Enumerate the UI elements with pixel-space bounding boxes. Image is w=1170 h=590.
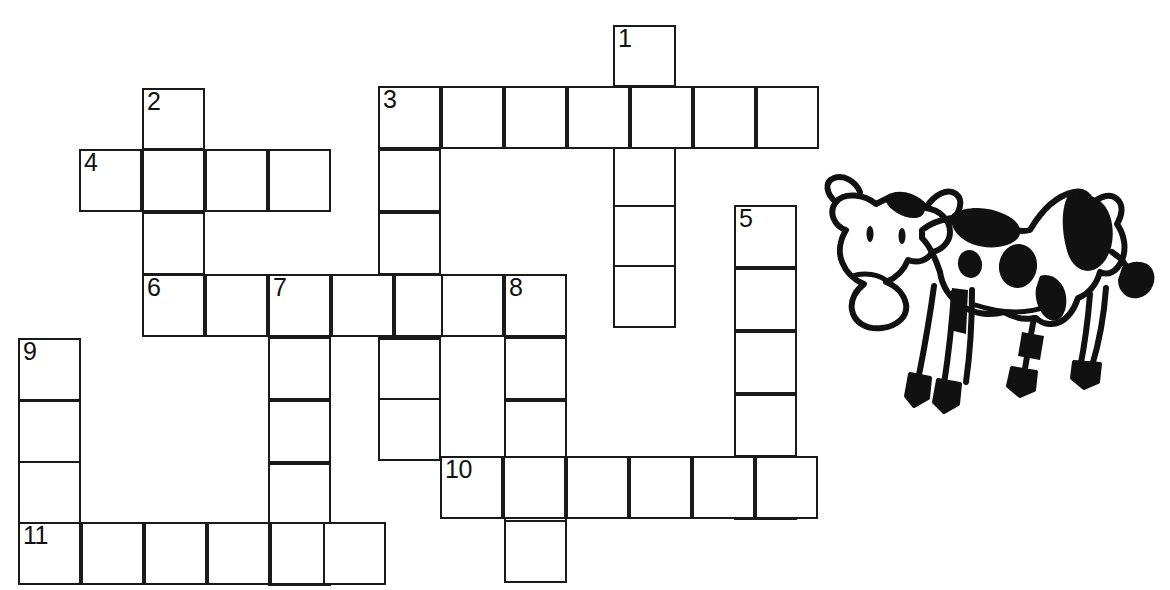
crossword-cell[interactable]	[205, 274, 268, 337]
crossword-cell[interactable]	[323, 522, 386, 585]
crossword-cell[interactable]	[378, 338, 441, 401]
cow-body-spot-round	[996, 242, 1040, 291]
crossword-cell[interactable]	[503, 456, 566, 519]
crossword-cell[interactable]	[734, 394, 797, 457]
cow-tail-tuft	[1120, 264, 1152, 297]
cow-drawing	[812, 168, 1164, 426]
crossword-cell[interactable]: 11	[18, 522, 81, 585]
cell-number: 9	[23, 338, 36, 364]
cow-hoof-front-left	[906, 374, 930, 406]
crossword-cell[interactable]	[613, 205, 676, 268]
cow-rump-spot	[1063, 194, 1113, 271]
crossword-cell[interactable]	[268, 463, 331, 526]
crossword-cell[interactable]	[504, 400, 567, 463]
crossword-cell[interactable]	[18, 400, 81, 463]
cow-body-spot-small	[955, 248, 984, 280]
cow-front-leg-left	[918, 286, 934, 380]
cell-number: 3	[383, 86, 396, 112]
crossword-cell[interactable]	[378, 212, 441, 275]
crossword-cell[interactable]	[207, 522, 270, 585]
cow-hoof-front-right	[934, 380, 960, 412]
crossword-cell[interactable]	[613, 145, 676, 208]
crossword-cell[interactable]	[629, 456, 692, 519]
crossword-cell[interactable]	[268, 400, 331, 463]
crossword-cell[interactable]	[142, 212, 205, 275]
cell-number: 8	[509, 274, 522, 300]
cow-hind-leg-spot	[1036, 275, 1067, 321]
crossword-cell[interactable]: 2	[142, 88, 205, 151]
crossword-cell[interactable]: 8	[504, 274, 567, 337]
crossword-cell[interactable]: 10	[440, 456, 503, 519]
crossword-cell[interactable]: 7	[268, 274, 331, 337]
crossword-cell[interactable]	[268, 337, 331, 400]
crossword-cell[interactable]	[692, 456, 755, 519]
cow-hoof-hind-right	[1072, 362, 1100, 388]
cow-hoof-hind-left	[1008, 368, 1036, 396]
crossword-cell[interactable]	[504, 86, 567, 149]
crossword-cell[interactable]	[566, 456, 629, 519]
crossword-cell[interactable]	[142, 149, 205, 212]
cell-number: 5	[739, 205, 752, 231]
crossword-cell[interactable]	[693, 86, 756, 149]
cow-body-group	[827, 177, 1152, 412]
crossword-cell[interactable]	[441, 86, 504, 149]
cell-number: 11	[23, 522, 48, 548]
crossword-cell[interactable]	[613, 265, 676, 328]
crossword-grid[interactable]: 1234567891011	[0, 0, 860, 590]
crossword-cell[interactable]	[504, 520, 567, 583]
crossword-cell[interactable]: 6	[142, 274, 205, 337]
cow-hind-leg-right-back	[1092, 288, 1106, 366]
cow-neck-spot	[951, 208, 1020, 247]
cell-number: 2	[147, 88, 160, 114]
cell-number: 4	[84, 149, 97, 175]
cow-left-eye	[867, 226, 874, 242]
cow-belly-line	[972, 304, 1048, 312]
cell-number: 7	[273, 274, 286, 300]
cell-number: 10	[445, 456, 472, 482]
cow-right-eye	[899, 228, 906, 244]
crossword-cell[interactable]	[756, 86, 819, 149]
cow-head-spot	[886, 193, 925, 218]
crossword-cell[interactable]	[734, 268, 797, 331]
crossword-cell[interactable]: 3	[378, 86, 441, 149]
crossword-cell[interactable]	[441, 274, 504, 337]
crossword-cell[interactable]: 4	[79, 149, 142, 212]
crossword-cell[interactable]	[567, 86, 630, 149]
crossword-cell[interactable]	[331, 274, 394, 337]
crossword-cell[interactable]	[630, 86, 693, 149]
crossword-cell[interactable]	[81, 522, 144, 585]
crossword-cell[interactable]	[504, 337, 567, 400]
crossword-cell[interactable]	[205, 149, 268, 212]
cell-number: 1	[618, 25, 631, 51]
crossword-cell[interactable]	[755, 456, 818, 519]
crossword-cell[interactable]	[268, 149, 331, 212]
worksheet-page: 1234567891011	[0, 0, 1170, 590]
crossword-cell[interactable]: 1	[613, 25, 676, 88]
crossword-cell[interactable]: 5	[734, 205, 797, 268]
cow-front-leg-band	[950, 288, 968, 334]
crossword-cell[interactable]: 9	[18, 338, 81, 401]
crossword-cell[interactable]	[378, 149, 441, 212]
crossword-cell[interactable]	[18, 461, 81, 524]
crossword-cell[interactable]	[378, 398, 441, 461]
cow-hind-leg-band	[1018, 332, 1044, 360]
cow-hind-leg-right	[1080, 294, 1090, 368]
cell-number: 6	[147, 274, 160, 300]
crossword-cell[interactable]	[144, 522, 207, 585]
crossword-cell[interactable]	[734, 331, 797, 394]
